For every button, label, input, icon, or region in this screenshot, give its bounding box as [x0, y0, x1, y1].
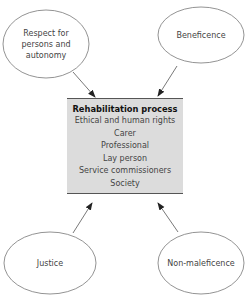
arrow-justice-to-box	[73, 203, 92, 233]
principle-justice-label: Justice	[10, 253, 90, 273]
process-item: Society	[67, 178, 183, 191]
principle-beneficence-label: Beneficence	[160, 25, 242, 45]
arrow-respect-to-box	[73, 72, 95, 97]
arrow-beneficence-to-box	[158, 66, 177, 96]
process-item: Service commissioners	[67, 165, 183, 178]
process-item: Lay person	[67, 153, 183, 166]
principle-non-maleficence-label: Non-maleficence	[160, 253, 242, 273]
principle-respect-label: Respect for persons and autonomy	[12, 18, 80, 70]
process-item: Professional	[67, 140, 183, 153]
process-title: Rehabilitation process	[67, 103, 183, 115]
arrow-non-maleficence-to-box	[158, 203, 178, 232]
process-item: Ethical and human rights	[67, 115, 183, 128]
rehabilitation-process-box: Rehabilitation process Ethical and human…	[67, 98, 183, 194]
process-item: Carer	[67, 128, 183, 141]
